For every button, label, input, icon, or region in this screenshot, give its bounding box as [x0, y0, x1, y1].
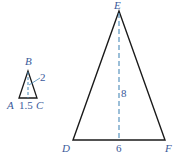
vertex-label-b: B	[25, 55, 32, 67]
vertex-label-e: E	[113, 0, 121, 11]
vertex-label-a: A	[6, 99, 14, 111]
base-label-small: 1.5	[19, 99, 33, 111]
vertex-label-c: C	[36, 99, 44, 111]
vertex-label-d: D	[61, 142, 70, 154]
height-label-large: 8	[121, 87, 127, 99]
height-label-small: 2	[40, 71, 46, 83]
base-label-large: 6	[116, 142, 122, 154]
small-triangle: B 2 A 1.5 C	[6, 55, 46, 111]
vertex-label-f: F	[164, 142, 172, 154]
large-triangle: E 8 D 6 F	[61, 0, 172, 154]
similar-triangles-diagram: B 2 A 1.5 C E 8 D 6 F	[0, 0, 177, 159]
